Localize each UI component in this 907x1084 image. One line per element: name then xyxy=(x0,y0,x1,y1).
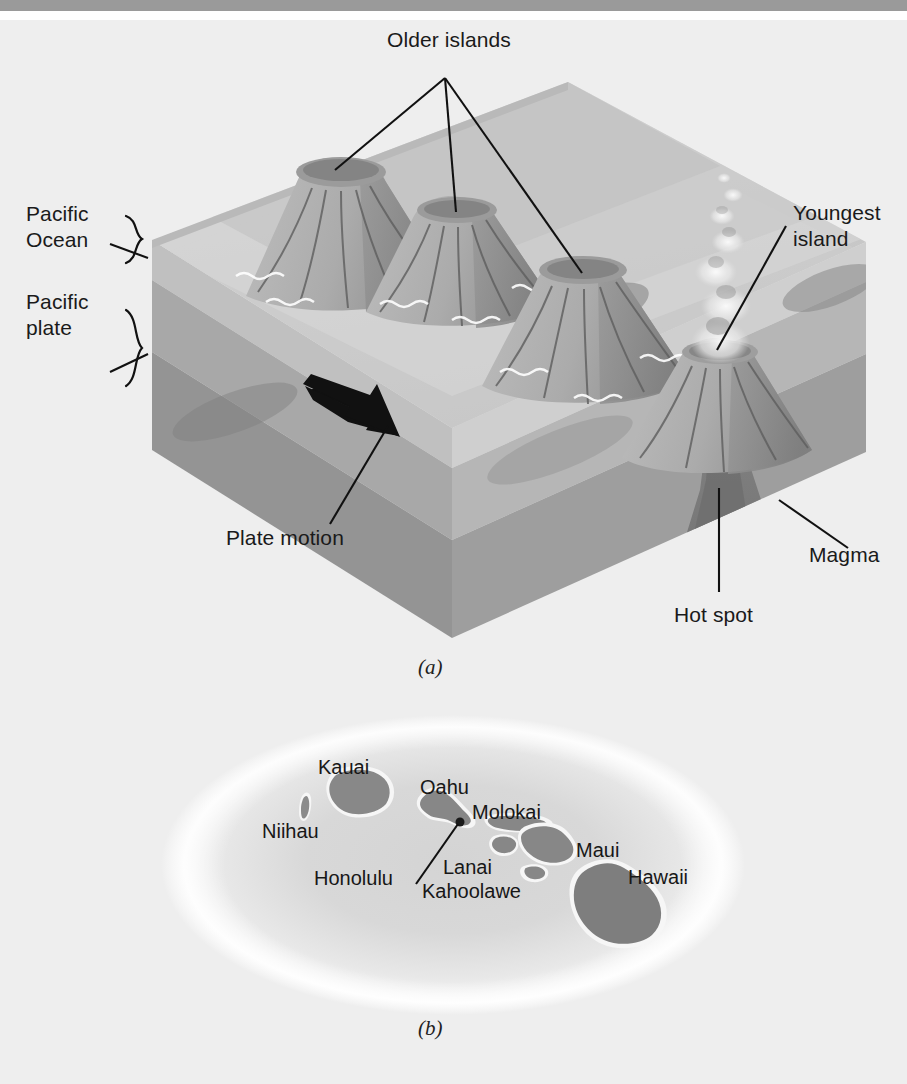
figure-root: Older islands Pacific Ocean Pacific plat… xyxy=(0,0,907,1084)
label-youngest-island-line1: Youngest xyxy=(793,201,881,226)
panel-b-island-map: Kauai Niihau Oahu Molokai Maui Lanai Kah… xyxy=(0,680,907,1084)
map-label-honolulu: Honolulu xyxy=(314,867,393,890)
label-plate-motion: Plate motion xyxy=(226,526,344,551)
caption-a: (a) xyxy=(418,655,443,680)
panel-a-artwork xyxy=(0,20,907,680)
map-label-niihau: Niihau xyxy=(262,820,319,843)
label-pacific-plate-line2: plate xyxy=(26,316,72,341)
map-label-molokai: Molokai xyxy=(472,801,541,824)
label-pacific-ocean-line2: Ocean xyxy=(26,228,88,253)
map-label-kahoolawe: Kahoolawe xyxy=(422,880,521,903)
map-label-lanai: Lanai xyxy=(443,856,492,879)
map-label-hawaii: Hawaii xyxy=(628,866,688,889)
caption-b: (b) xyxy=(418,1016,443,1041)
label-older-islands: Older islands xyxy=(387,28,511,53)
map-label-maui: Maui xyxy=(576,839,619,862)
map-label-oahu: Oahu xyxy=(420,776,469,799)
label-youngest-island-line2: island xyxy=(793,227,848,252)
map-label-kauai: Kauai xyxy=(318,756,369,779)
label-pacific-plate-line1: Pacific xyxy=(26,290,89,315)
label-magma: Magma xyxy=(809,543,880,568)
label-hot-spot: Hot spot xyxy=(674,603,753,628)
top-rule-bar xyxy=(0,0,907,11)
panel-a-block-diagram: Older islands Pacific Ocean Pacific plat… xyxy=(0,20,907,680)
label-pacific-ocean-line1: Pacific xyxy=(26,202,89,227)
top-white-gap xyxy=(0,11,907,20)
